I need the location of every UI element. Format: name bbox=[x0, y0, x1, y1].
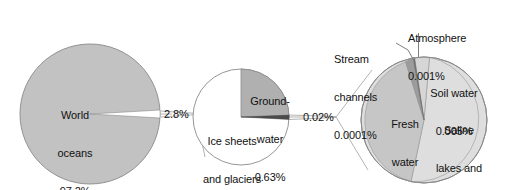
label-world-oceans: World oceans 97.2% bbox=[32, 84, 118, 190]
label-saline-lakes-inland-seas: Saline lakes and inland seas 0.008% bbox=[421, 99, 497, 190]
label-world-oceans-line2: oceans bbox=[32, 147, 118, 160]
label-groundwater-line1: Ground- bbox=[243, 95, 297, 108]
label-world-oceans-line1: World bbox=[32, 109, 118, 122]
label-groundwater-line2: water bbox=[243, 133, 297, 146]
water-distribution-figure: World oceans 97.2% 2.8% Ice sheets and g… bbox=[0, 0, 506, 190]
label-atmosphere-line1: Atmosphere bbox=[408, 32, 480, 45]
label-saline-line2: lakes and bbox=[421, 162, 497, 175]
label-stream-channels-line1: Stream bbox=[334, 53, 396, 66]
label-groundwater: Ground- water 0.63% bbox=[243, 70, 297, 190]
label-saline-line1: Saline bbox=[421, 124, 497, 137]
label-world-oceans-percent: 97.2% bbox=[32, 185, 118, 190]
label-groundwater-percent: 0.63% bbox=[243, 171, 297, 184]
